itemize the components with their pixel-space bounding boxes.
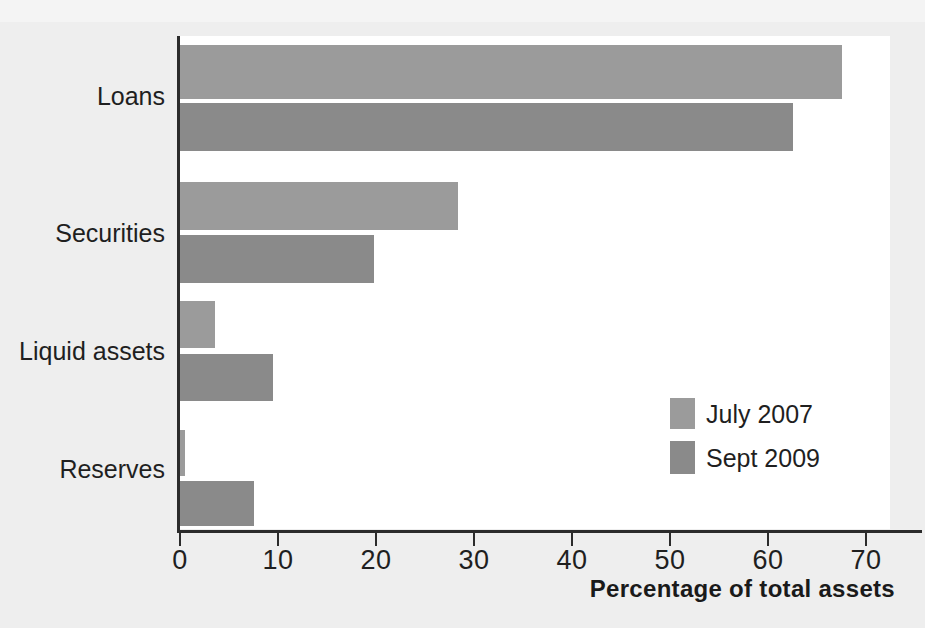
category-label-liquid-assets: Liquid assets <box>19 337 165 366</box>
x-tick-label-5: 50 <box>654 545 685 576</box>
x-axis-line <box>177 530 922 533</box>
category-label-loans: Loans <box>97 82 165 111</box>
legend-swatch-sept-2009 <box>670 441 695 474</box>
bar-chart: 0 10 20 30 40 50 60 70 Loans Securities … <box>0 0 925 628</box>
x-tick-label-0: 0 <box>172 545 188 576</box>
category-label-securities: Securities <box>55 219 165 248</box>
bar-reserves-july-2007 <box>180 430 185 476</box>
x-tick-label-7: 70 <box>850 545 881 576</box>
legend-label-sept-2009: Sept 2009 <box>706 444 820 473</box>
x-tick-label-3: 30 <box>458 545 489 576</box>
x-tick-label-1: 10 <box>262 545 293 576</box>
category-label-reserves: Reserves <box>59 455 165 484</box>
bar-loans-july-2007 <box>180 45 842 99</box>
x-axis-title: Percentage of total assets <box>590 575 895 603</box>
page-top-margin <box>0 0 925 22</box>
x-tick-label-2: 20 <box>360 545 391 576</box>
bar-liquid-assets-sept-2009 <box>180 354 273 401</box>
bar-reserves-sept-2009 <box>180 481 254 526</box>
x-tick-label-6: 60 <box>752 545 783 576</box>
bar-securities-sept-2009 <box>180 235 374 283</box>
bar-securities-july-2007 <box>180 182 458 230</box>
legend-swatch-july-2007 <box>670 398 695 429</box>
legend-label-july-2007: July 2007 <box>706 400 813 429</box>
bar-loans-sept-2009 <box>180 103 793 151</box>
bar-liquid-assets-july-2007 <box>180 301 215 348</box>
x-tick-label-4: 40 <box>556 545 587 576</box>
